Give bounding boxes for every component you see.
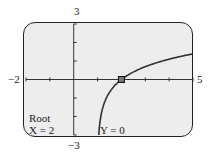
xmax-label: 5 bbox=[197, 74, 203, 85]
y-readout: Y = 0 bbox=[100, 125, 125, 136]
function-curve bbox=[99, 54, 193, 135]
x-readout: X = 2 bbox=[29, 125, 54, 136]
ymin-label: −3 bbox=[68, 140, 80, 151]
root-marker bbox=[118, 77, 124, 83]
ymax-label: 3 bbox=[74, 6, 80, 17]
axes bbox=[26, 24, 193, 135]
xmin-label: −2 bbox=[8, 74, 20, 85]
mode-label: Root bbox=[29, 113, 50, 124]
